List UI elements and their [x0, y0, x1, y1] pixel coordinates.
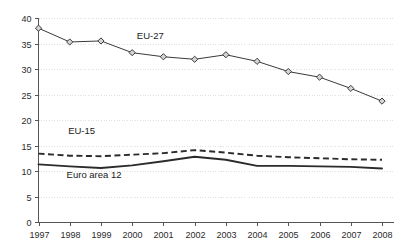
- data-point-2003: [223, 52, 229, 58]
- y-tick-label-30: 30: [21, 65, 31, 75]
- y-tick-label-40: 40: [21, 14, 31, 24]
- x-tick-label-2008: 2008: [372, 230, 392, 240]
- y-tick-label-5: 5: [26, 193, 31, 203]
- data-point-2000: [129, 50, 135, 56]
- data-point-2006: [316, 74, 322, 80]
- series-annotation-eu-27: EU-27: [137, 30, 164, 41]
- data-point-1997: [35, 25, 41, 31]
- y-tick-label-20: 20: [21, 116, 31, 126]
- x-tick-label-2001: 2001: [153, 230, 173, 240]
- x-tick-labels: 1997199819992000200120022003200420052006…: [29, 230, 392, 240]
- x-tick-label-2002: 2002: [185, 230, 205, 240]
- x-tick-label-1998: 1998: [60, 230, 80, 240]
- y-tick-label-15: 15: [21, 142, 31, 152]
- y-tick-label-10: 10: [21, 167, 31, 177]
- data-point-2007: [348, 85, 354, 91]
- y-tick-label-25: 25: [21, 91, 31, 101]
- y-tick-label-35: 35: [21, 40, 31, 50]
- series-annotation-euro-area-12: Euro area 12: [67, 169, 122, 180]
- x-axis: 1997199819992000200120022003200420052006…: [29, 222, 394, 240]
- series-layer: [35, 25, 385, 168]
- x-tick-label-2000: 2000: [122, 230, 142, 240]
- x-tick-label-1997: 1997: [29, 230, 49, 240]
- line-chart: 0510152025303540 19971998199920002001200…: [0, 0, 402, 249]
- series-line-euro-area-12: [39, 157, 383, 169]
- data-point-2002: [192, 56, 198, 62]
- series-annotation-eu-15: EU-15: [68, 125, 95, 136]
- data-point-2004: [254, 58, 260, 64]
- series-line-eu-27: [39, 28, 383, 101]
- x-tick-label-2006: 2006: [310, 230, 330, 240]
- x-tick-label-2004: 2004: [247, 230, 267, 240]
- y-tick-labels: 0510152025303540: [21, 14, 31, 228]
- x-tick-label-1999: 1999: [91, 230, 111, 240]
- y-tick-label-0: 0: [26, 218, 31, 228]
- chart-canvas: 0510152025303540 19971998199920002001200…: [0, 0, 402, 249]
- y-tick-marks: [35, 19, 39, 223]
- x-tick-label-2007: 2007: [341, 230, 361, 240]
- data-point-2008: [379, 98, 385, 104]
- data-point-2001: [160, 54, 166, 60]
- y-axis: 0510152025303540: [21, 14, 38, 228]
- x-tick-label-2005: 2005: [278, 230, 298, 240]
- series-annotations: EU-27EU-15Euro area 12: [67, 30, 164, 179]
- data-point-1999: [98, 38, 104, 44]
- x-tick-label-2003: 2003: [216, 230, 236, 240]
